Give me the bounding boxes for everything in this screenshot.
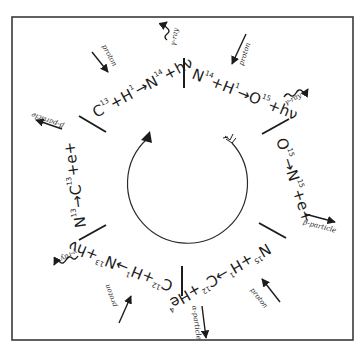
proton-label: proton	[103, 283, 119, 308]
beta-particle-label: β-particle	[30, 111, 65, 130]
proton-label: proton	[100, 43, 118, 68]
proton-arrow-icon	[119, 296, 131, 323]
svg-text:C13+H1→N14+hν: C13+H1→N14+hν	[89, 54, 195, 122]
separator	[259, 223, 286, 238]
reaction-step-3: O15→N15+e+	[272, 136, 316, 225]
svg-text:O15→N15+e+: O15→N15+e+	[272, 136, 316, 225]
svg-text:C12+H1→N13+hν: C12+H1→N13+hν	[66, 237, 176, 295]
svg-text:N13→C13+e+: N13→C13+e+	[60, 141, 90, 229]
svg-text:N15+H1→C12+He4: N15+H1→C12+He4	[162, 240, 274, 315]
proton-label: proton	[237, 41, 252, 66]
gamma-ray-label: γ-ray	[169, 26, 180, 46]
reaction-step-2: N14+H1→O15+hν	[190, 65, 301, 124]
reaction-step-6: N13→C13+e+	[60, 141, 90, 229]
reaction-step-4: N15+H1→C12+He4	[162, 240, 274, 315]
ring-feather-icon	[223, 134, 236, 143]
gamma-ray-wave-icon	[165, 22, 169, 40]
svg-text:N14+H1→O15+hν: N14+H1→O15+hν	[190, 65, 301, 124]
proton-label: proton	[248, 286, 269, 310]
alpha-particle-label: α-particle	[190, 305, 203, 340]
cno-cycle-diagram: C13+H1→N14+hν proton γ-ray N14+H1→O15+hν…	[0, 0, 364, 354]
reaction-step-5: C12+H1→N13+hν	[66, 237, 176, 295]
ring-arrowhead-icon	[141, 131, 152, 143]
separator	[262, 119, 289, 134]
cycle-ring	[128, 131, 248, 243]
reaction-step-1: C13+H1→N14+hν	[89, 54, 195, 122]
